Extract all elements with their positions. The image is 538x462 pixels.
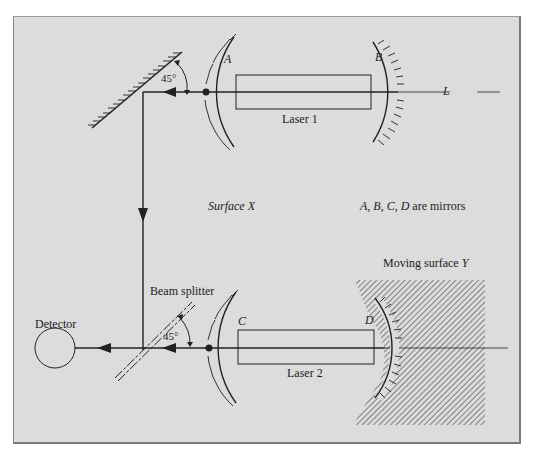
label-mirror-a: A: [224, 52, 231, 67]
label-laser1: Laser 1: [282, 112, 318, 127]
angle-arc-top: [177, 63, 187, 92]
detector-icon: [35, 328, 75, 368]
label-note: A, B, C, D are mirrors: [360, 199, 465, 214]
label-mirror-d: D: [365, 313, 374, 328]
label-moving-surface: Moving surface Y: [383, 256, 468, 271]
arrow-left-icon: [163, 87, 176, 97]
label-surface-x: Surface X: [208, 199, 255, 214]
label-line-l: L: [443, 84, 450, 99]
laser2-box: [238, 330, 374, 364]
arrow-left-icon: [162, 343, 176, 353]
label-mirror-b: B: [375, 50, 382, 65]
label-mirror-c: C: [238, 314, 246, 329]
label-detector: Detector: [35, 317, 76, 332]
label-angle-top: 45°: [161, 72, 176, 84]
arrow-left-icon: [97, 343, 111, 353]
moving-surface-y: [353, 280, 485, 425]
arrow-down-icon: [138, 208, 148, 222]
label-beam-splitter: Beam splitter: [150, 284, 214, 299]
output-point-a: [203, 89, 210, 96]
output-point-c: [206, 345, 213, 352]
interferometer-diagram: [0, 0, 538, 462]
label-angle-bottom: 45°: [163, 330, 178, 342]
beam-splitter: [115, 302, 195, 381]
label-laser2: Laser 2: [287, 366, 323, 381]
flat-mirror-top: [88, 52, 182, 128]
angle-arc-bottom: [180, 318, 190, 345]
